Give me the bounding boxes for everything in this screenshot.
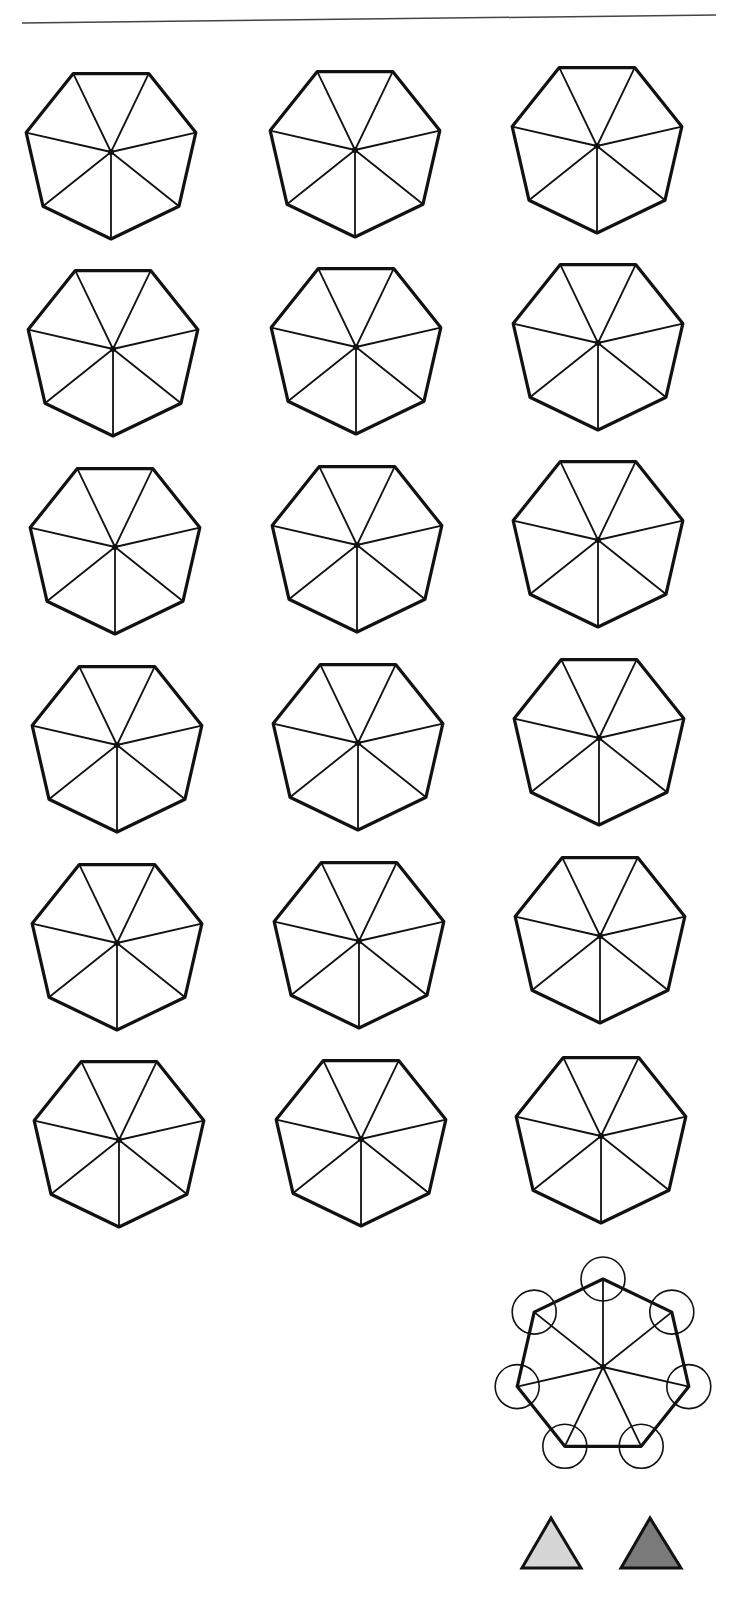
spoke-line: [34, 1121, 119, 1140]
spoke-line: [512, 127, 597, 146]
spoke-line: [355, 131, 440, 150]
spoke-line: [356, 328, 441, 347]
spoke-line: [272, 526, 357, 545]
center-dot: [358, 1136, 364, 1142]
spoke-line: [361, 1061, 399, 1139]
spoke-line: [288, 347, 356, 401]
heptagon-15: [515, 858, 685, 1023]
heptagon-4: [28, 271, 198, 436]
center-dot: [597, 933, 603, 939]
spoke-line: [111, 74, 149, 152]
center-dot: [598, 1133, 604, 1139]
center-dot: [114, 940, 120, 946]
spoke-line: [119, 1140, 187, 1194]
spoke-line: [321, 863, 359, 941]
dark-triangle: [621, 1518, 681, 1568]
spoke-line: [359, 922, 444, 941]
spoke-line: [598, 265, 636, 343]
heptagon-highlighted: [495, 1257, 711, 1468]
center-dot: [114, 742, 120, 748]
spoke-line: [563, 1058, 601, 1136]
spoke-line: [357, 467, 395, 545]
spoke-line: [319, 467, 357, 545]
spoke-line: [601, 1136, 669, 1190]
center-dot: [596, 735, 602, 741]
diagram-canvas: [0, 0, 730, 1597]
heptagon-18: [516, 1058, 686, 1223]
spoke-line: [532, 936, 600, 990]
center-dot: [594, 143, 600, 149]
spoke-line: [49, 943, 117, 997]
spoke-line: [81, 1062, 119, 1140]
spoke-line: [358, 724, 443, 743]
spoke-line: [358, 665, 396, 743]
spoke-line: [601, 1117, 686, 1136]
spoke-line: [117, 745, 185, 799]
spoke-line: [79, 667, 117, 745]
heptagon-10: [32, 667, 202, 832]
heptagon-16: [34, 1062, 204, 1227]
spoke-line: [513, 521, 598, 540]
spoke-line: [600, 936, 668, 990]
spoke-line: [111, 152, 179, 206]
spoke-line: [600, 917, 685, 936]
spoke-line: [318, 269, 356, 347]
spoke-line: [30, 528, 115, 547]
spoke-line: [560, 265, 598, 343]
heptagon-grid: [26, 68, 686, 1227]
spoke-line: [293, 1139, 361, 1193]
spoke-line: [515, 917, 600, 936]
center-dot: [354, 542, 360, 548]
spoke-line: [601, 1058, 639, 1136]
spoke-line: [356, 269, 394, 347]
spoke-line: [32, 726, 117, 745]
spoke-line: [359, 863, 397, 941]
light-triangle: [522, 1518, 581, 1568]
spoke-line: [75, 271, 113, 349]
spoke-line: [73, 74, 111, 152]
spoke-line: [530, 343, 598, 397]
spoke-line: [32, 924, 117, 943]
heptagon-7: [30, 469, 200, 634]
spoke-line: [287, 150, 355, 204]
spoke-line: [49, 745, 117, 799]
spoke-line: [531, 738, 599, 792]
spoke-line: [533, 1136, 601, 1190]
spoke-line: [111, 133, 196, 152]
spoke-line: [26, 133, 111, 152]
spoke-line: [359, 941, 427, 995]
spoke-line: [115, 547, 183, 601]
highlighted-heptagon-with-vertex-circles: [495, 1257, 711, 1468]
spoke-line: [599, 738, 667, 792]
spoke-line: [598, 324, 683, 343]
spoke-line: [598, 343, 666, 397]
spoke-line: [291, 941, 359, 995]
center-dot: [595, 340, 601, 346]
heptagon-17: [276, 1061, 446, 1226]
heptagon-11: [273, 665, 443, 830]
spoke-line: [274, 922, 359, 941]
spoke-line: [513, 324, 598, 343]
spoke-line: [517, 1367, 603, 1387]
center-dot: [600, 1364, 606, 1370]
spoke-line: [603, 1367, 689, 1387]
spoke-line: [562, 858, 600, 936]
spoke-line: [117, 726, 202, 745]
spoke-line: [361, 1139, 429, 1193]
spoke-line: [317, 72, 355, 150]
spoke-line: [45, 349, 113, 403]
triangle-swatches: [522, 1518, 681, 1568]
spoke-line: [534, 1312, 603, 1367]
spoke-line: [117, 924, 202, 943]
spoke-line: [598, 521, 683, 540]
heptagon-14: [274, 863, 444, 1028]
spoke-line: [530, 540, 598, 594]
spoke-line: [597, 146, 665, 200]
spoke-line: [270, 131, 355, 150]
spoke-line: [355, 150, 423, 204]
spoke-line: [320, 665, 358, 743]
spoke-line: [597, 127, 682, 146]
spoke-line: [597, 68, 635, 146]
center-dot: [110, 346, 116, 352]
spoke-line: [559, 68, 597, 146]
